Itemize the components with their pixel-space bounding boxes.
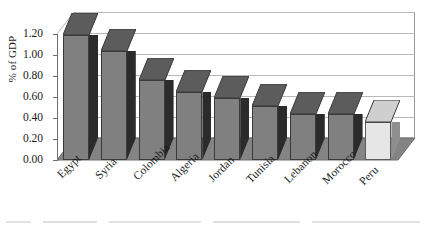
bar — [365, 100, 391, 160]
bar — [101, 29, 127, 160]
y-axis-tick-mark — [53, 76, 58, 77]
plot-area — [0, 0, 426, 226]
bar-chart: % of GDP 1.201.000.800.600.400.200.00 Eg… — [0, 0, 426, 226]
gridline — [74, 12, 415, 13]
bar — [252, 84, 278, 160]
bar-front-face — [63, 35, 89, 160]
bar-side-face — [89, 35, 98, 160]
bar — [63, 13, 89, 160]
y-axis-tick-mark — [53, 118, 58, 119]
bar — [176, 70, 202, 160]
bar-front-face — [252, 106, 278, 160]
bar-front-face — [176, 92, 202, 160]
y-axis-tick-mark — [53, 34, 58, 35]
y-axis-tick-mark — [53, 55, 58, 56]
caption-text-sliver — [6, 221, 420, 223]
bar-front-face — [365, 122, 391, 160]
y-axis-tick-mark — [53, 160, 58, 161]
y-axis-tick-mark — [53, 139, 58, 140]
y-axis-line — [57, 34, 58, 161]
bar-front-face — [101, 51, 127, 160]
bar — [214, 76, 240, 160]
y-axis-tick-mark — [53, 97, 58, 98]
bar-front-face — [214, 98, 240, 160]
